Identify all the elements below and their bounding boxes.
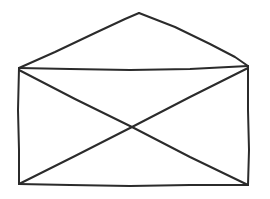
envelope-body-right-edge (248, 66, 249, 185)
envelope-sketch (0, 0, 270, 199)
envelope-body-left-edge (18, 68, 19, 184)
canvas-background (0, 0, 270, 199)
drawing-canvas (0, 0, 270, 199)
